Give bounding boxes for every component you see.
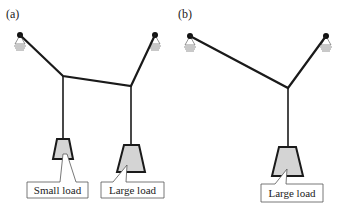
- linkage-bars: [20, 35, 155, 86]
- callout-large-load-text: Large load: [109, 184, 157, 196]
- panel-a: (a) Small load: [6, 7, 164, 198]
- callout-large-load-text: Large load: [268, 187, 316, 199]
- panel-a-label: (a): [6, 7, 19, 21]
- mechanism-diagram: (a) Small load: [0, 0, 343, 211]
- large-load-weight: [117, 145, 145, 172]
- linkage-bars: [190, 36, 326, 88]
- panel-b: (b) Large load: [178, 7, 332, 202]
- large-load-weight: [272, 147, 303, 176]
- callout-small-load-text: Small load: [34, 184, 82, 196]
- panel-b-label: (b): [178, 7, 192, 21]
- callout-small-load: Small load: [27, 154, 88, 198]
